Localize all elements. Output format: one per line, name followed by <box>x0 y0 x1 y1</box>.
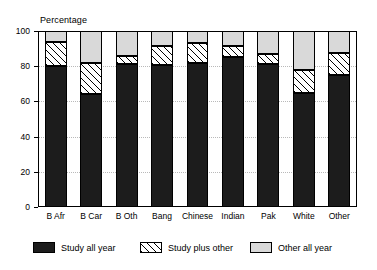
x-axis-labels: B AfrB CarB OthBangChineseIndianPakWhite… <box>38 209 357 225</box>
segment-other-all-year <box>80 31 102 63</box>
x-tick-label: Bang <box>144 211 179 221</box>
light-gray-swatch <box>250 242 272 253</box>
segment-study-all-year <box>116 64 138 207</box>
segment-other-all-year <box>187 31 209 43</box>
x-tick-label: B Car <box>73 211 108 221</box>
x-tick-label: Indian <box>215 211 250 221</box>
segment-other-all-year <box>328 31 350 53</box>
segment-study-plus-other <box>187 43 209 62</box>
segment-study-plus-other <box>80 63 102 95</box>
legend-label: Other all year <box>278 243 332 253</box>
y-tick-label: 20 <box>21 168 30 176</box>
segment-study-plus-other <box>328 53 350 75</box>
bar-indian <box>222 31 244 207</box>
x-tick-label: Pak <box>251 211 286 221</box>
segment-other-all-year <box>222 31 244 46</box>
stacked-bar-chart: Percentage 020406080100 B AfrB CarB OthB… <box>0 0 377 270</box>
legend-item-1[interactable]: Study all year <box>33 242 116 253</box>
segment-study-all-year <box>80 94 102 207</box>
y-tick-label: 100 <box>16 27 30 35</box>
bar-b-afr <box>45 31 67 207</box>
segment-other-all-year <box>257 31 279 54</box>
x-tick-label: B Afr <box>38 211 73 221</box>
segment-study-plus-other <box>293 70 315 93</box>
segment-study-plus-other <box>151 46 173 65</box>
x-tick-label: Chinese <box>180 211 215 221</box>
bar-bang <box>151 31 173 207</box>
y-tick-label: 60 <box>21 97 30 105</box>
bar-b-car <box>80 31 102 207</box>
segment-study-plus-other <box>116 56 138 65</box>
chart-legend: Study all yearStudy plus otherOther all … <box>0 242 377 262</box>
bar-chinese <box>187 31 209 207</box>
x-tick-label: White <box>286 211 321 221</box>
bar-b-oth <box>116 31 138 207</box>
y-axis: 020406080100 <box>0 31 38 207</box>
legend-item-3[interactable]: Other all year <box>250 242 332 253</box>
segment-study-all-year <box>328 75 350 207</box>
diagonal-hatch-swatch <box>140 242 162 253</box>
segment-other-all-year <box>116 31 138 56</box>
legend-label: Study plus other <box>168 243 233 253</box>
bar-other <box>328 31 350 207</box>
segment-study-all-year <box>293 93 315 207</box>
y-axis-title: Percentage <box>40 15 87 25</box>
legend-item-2[interactable]: Study plus other <box>140 242 233 253</box>
bar-white <box>293 31 315 207</box>
segment-study-all-year <box>151 65 173 207</box>
y-tick-label: 40 <box>21 133 30 141</box>
segment-study-plus-other <box>257 54 279 65</box>
y-tick-label: 0 <box>25 203 30 211</box>
segment-study-all-year <box>257 64 279 207</box>
legend-label: Study all year <box>61 243 116 253</box>
x-tick-label: B Oth <box>109 211 144 221</box>
segment-other-all-year <box>151 31 173 46</box>
segment-study-all-year <box>187 63 209 207</box>
segment-other-all-year <box>293 31 315 70</box>
y-tick-mark <box>34 207 38 208</box>
segment-study-plus-other <box>222 46 244 57</box>
segment-study-all-year <box>45 66 67 207</box>
segment-study-all-year <box>222 57 244 207</box>
y-tick-label: 80 <box>21 62 30 70</box>
x-tick-label: Other <box>322 211 357 221</box>
bar-pak <box>257 31 279 207</box>
bars-layer <box>38 31 357 207</box>
segment-study-plus-other <box>45 42 67 66</box>
segment-other-all-year <box>45 31 67 42</box>
solid-dark-swatch <box>33 242 55 253</box>
